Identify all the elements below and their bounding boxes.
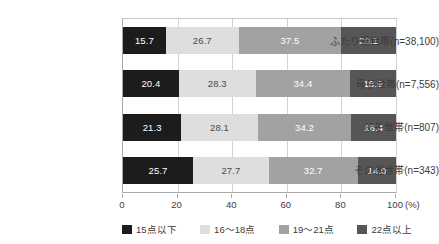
bar-segment-value: 34.2 <box>295 122 314 133</box>
tick-mark <box>231 194 232 198</box>
bar-segment-value: 34.4 <box>293 78 312 89</box>
chart-legend: 15点以下16～18点19～21点22点以上 <box>122 222 412 236</box>
legend-swatch-icon <box>279 225 289 234</box>
bar-segment: 20.4 <box>123 70 179 97</box>
legend-item[interactable]: 19～21点 <box>279 222 334 236</box>
bar-segment-value: 28.3 <box>208 78 227 89</box>
bar-segment-value: 28.1 <box>210 122 229 133</box>
legend-item[interactable]: 16～18点 <box>200 222 255 236</box>
tick-mark <box>122 194 123 198</box>
legend-swatch-icon <box>122 225 132 234</box>
stacked-bar-chart: 15.726.737.520.120.428.334.416.921.328.1… <box>0 0 439 244</box>
bar-segment-value: 25.7 <box>149 165 168 176</box>
bar-segment-value: 26.7 <box>193 35 212 46</box>
legend-label: 16～18点 <box>214 222 255 236</box>
tick-mark <box>177 194 178 198</box>
bar-segment: 28.3 <box>179 70 256 97</box>
tick-mark <box>395 194 396 198</box>
bar-segment: 27.7 <box>193 157 269 184</box>
bar-segment-value: 27.7 <box>221 165 240 176</box>
tick-label: 100 <box>387 199 403 210</box>
legend-item[interactable]: 15点以下 <box>122 222 177 236</box>
legend-item[interactable]: 22点以上 <box>357 222 412 236</box>
tick-label: 20 <box>171 199 182 210</box>
category-label: ふたり親世帯(n=38,100) <box>321 32 439 47</box>
category-label: 父子世帯(n=807) <box>321 119 439 134</box>
legend-label: 15点以下 <box>136 222 177 236</box>
category-label: 母子世帯(n=7,556) <box>321 75 439 90</box>
bar-segment-value: 21.3 <box>143 122 162 133</box>
tick-label: 0 <box>119 199 124 210</box>
tick-mark <box>340 194 341 198</box>
bar-segment-value: 32.7 <box>304 165 323 176</box>
legend-swatch-icon <box>200 225 210 234</box>
tick-label: 80 <box>335 199 346 210</box>
axis-unit-label: (%) <box>405 199 420 210</box>
bar-segment: 26.7 <box>166 27 239 54</box>
legend-label: 22点以上 <box>371 222 412 236</box>
bar-segment: 15.7 <box>123 27 166 54</box>
tick-label: 60 <box>281 199 292 210</box>
category-label: その他世帯(n=343) <box>321 162 439 177</box>
bar-segment: 21.3 <box>123 114 181 141</box>
tick-mark <box>286 194 287 198</box>
bar-segment-value: 15.7 <box>135 35 154 46</box>
legend-swatch-icon <box>357 225 367 234</box>
tick-label: 40 <box>226 199 237 210</box>
bar-segment-value: 37.5 <box>280 35 299 46</box>
bar-segment-value: 20.4 <box>141 78 160 89</box>
bar-segment: 28.1 <box>181 114 258 141</box>
bar-segment: 25.7 <box>123 157 193 184</box>
legend-label: 19～21点 <box>293 222 334 236</box>
